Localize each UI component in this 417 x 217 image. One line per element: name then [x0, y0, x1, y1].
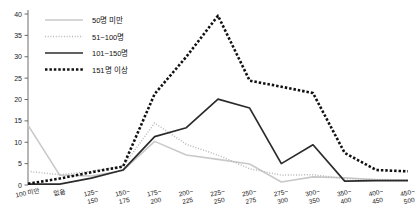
y-tick-label: 30 — [14, 53, 22, 60]
x-tick-label-line1: 없음 — [53, 188, 66, 198]
x-tick-label: 150~175 — [115, 188, 133, 206]
legend-label-2: 51~100명 — [92, 32, 124, 42]
legend-label-3: 101~150명 — [92, 48, 128, 58]
y-tick-label: 40 — [14, 11, 22, 18]
x-tick-label: 없음 — [53, 188, 66, 198]
x-tick-label-line2: 150 — [86, 196, 98, 205]
legend-label-4: 151명 이상 — [92, 65, 128, 75]
x-tick-label-line2: 250 — [213, 196, 225, 205]
x-tick-labels: 100 미만없음125~150150~175175~200200~225225~… — [14, 186, 417, 206]
x-tick-label: 200~225 — [178, 188, 196, 206]
x-tick-label-line2: 300 — [276, 196, 288, 205]
x-tick-label-line2: 450 — [371, 196, 383, 205]
y-tick-label: 0 — [18, 182, 22, 189]
y-axis: 0510152025303540 — [14, 10, 28, 189]
y-tick-label: 5 — [18, 160, 22, 167]
y-tick-label: 35 — [14, 32, 22, 39]
x-tick-label-line2: 200 — [150, 196, 162, 205]
y-tick-marks — [25, 14, 29, 185]
x-tick-label: 225~250 — [210, 188, 228, 206]
x-tick-label: 300~350 — [305, 188, 323, 206]
line-chart: 0510152025303540 100 미만없음125~150150~1751… — [0, 0, 417, 217]
x-tick-label: 125~150 — [83, 188, 101, 206]
x-tick-label: 250~275 — [241, 188, 259, 206]
chart-svg: 0510152025303540 100 미만없음125~150150~1751… — [0, 0, 417, 217]
y-tick-label: 15 — [14, 117, 22, 124]
x-tick-label-line2: 225 — [181, 196, 193, 205]
x-tick-label-line2: 400 — [340, 196, 352, 205]
x-tick-label: 175~200 — [146, 188, 164, 206]
x-tick-label: 450~500 — [400, 188, 417, 206]
x-tick-label: 275~300 — [273, 188, 291, 206]
legend-label-1: 50명 미만 — [92, 15, 123, 25]
x-tick-label-line2: 350 — [308, 196, 320, 205]
x-tick-label-line2: 175 — [118, 196, 130, 205]
x-tick-label: 400~450 — [368, 188, 386, 206]
y-tick-label: 10 — [14, 139, 22, 146]
y-tick-label: 20 — [14, 96, 22, 103]
series-lines — [28, 16, 408, 184]
x-tick-label-line2: 275 — [245, 196, 257, 205]
x-tick-label-line2: 500 — [403, 196, 415, 205]
chart-legend: 50명 미만51~100명101~150명151명 이상 — [45, 15, 128, 75]
y-tick-label: 25 — [14, 75, 22, 82]
x-axis: 100 미만없음125~150150~175175~200200~225225~… — [14, 186, 417, 206]
x-tick-label: 350~400 — [336, 188, 354, 206]
series-line-2 — [28, 123, 408, 180]
y-tick-labels: 0510152025303540 — [14, 11, 22, 189]
